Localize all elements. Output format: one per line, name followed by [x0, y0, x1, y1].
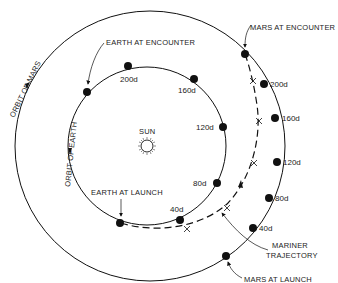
earth-at-launch-dot: [116, 219, 124, 227]
mars-at-launch-label: MARS AT LAUNCH: [244, 275, 312, 283]
earth-120d-label: 120d: [196, 123, 214, 132]
earth-200d-dot: [124, 62, 132, 70]
mars-200d-label: 200d: [270, 80, 288, 89]
earth-80d-label: 80d: [193, 179, 206, 188]
sun-label: SUN: [139, 127, 155, 136]
earth-40d-label: 40d: [170, 205, 183, 214]
sun-icon: [138, 137, 156, 155]
earth-encounter-leader: [88, 43, 104, 84]
mars-80d-label: 80d: [275, 194, 288, 203]
earth-orbit: [68, 67, 226, 225]
earth-200d-label: 200d: [120, 75, 138, 84]
earth-80d-dot: [213, 179, 221, 187]
orbit-of-earth-label: ORBIT OF EARTH: [63, 121, 79, 187]
earth-160d-label: 160d: [178, 86, 196, 95]
orbit-diagram: SUN 200d 160d 120d 80d 40d 200d 160d: [0, 0, 338, 283]
mars-launch-leader: [228, 262, 242, 278]
mars-200d-dot: [260, 80, 268, 88]
mars-at-encounter-label: MARS AT ENCOUNTER: [250, 23, 336, 32]
earth-160d-dot: [190, 75, 198, 83]
mars-at-launch-dot: [222, 252, 230, 260]
mars-40d-dot: [249, 224, 257, 232]
mariner-trajectory-label-line2: TRAJECTORY: [266, 251, 318, 260]
mariner-trajectory: [121, 54, 258, 228]
mars-160d-label: 160d: [282, 114, 300, 123]
earth-120d-dot: [219, 123, 227, 131]
mars-at-encounter-dot: [241, 50, 249, 58]
earth-at-encounter-dot: [83, 88, 91, 96]
mars-120d-label: 120d: [283, 158, 301, 167]
mars-80d-dot: [265, 194, 273, 202]
earth-40d-dot: [176, 216, 184, 224]
earth-at-encounter-label: EARTH AT ENCOUNTER: [106, 38, 195, 47]
mars-120d-dot: [273, 158, 281, 166]
mariner-trajectory-label-line1: MARINER: [272, 241, 308, 250]
orbit-of-mars-label: ORBIT OF MARS: [8, 60, 43, 119]
earth-at-launch-label: EARTH AT LAUNCH: [91, 188, 163, 197]
mars-160d-dot: [271, 114, 279, 122]
trajectory-x-markers: [184, 78, 262, 232]
mars-40d-label: 40d: [259, 224, 272, 233]
